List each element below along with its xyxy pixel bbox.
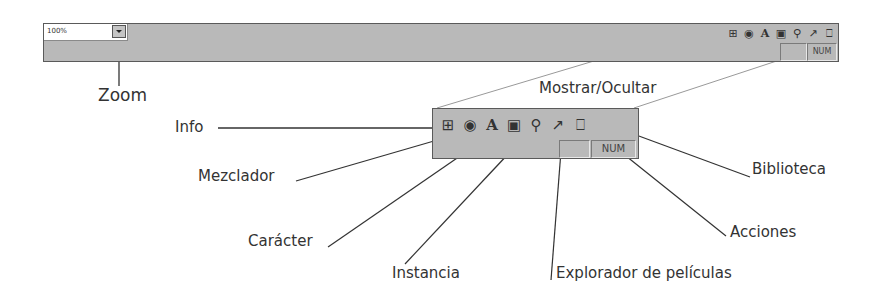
instance-icon[interactable]: ▣	[506, 118, 522, 133]
num-lock-indicator: NUM	[807, 43, 837, 61]
label-info: Info	[175, 118, 203, 136]
label-zoom: Zoom	[98, 85, 147, 105]
library-icon[interactable]: ⎕	[572, 118, 588, 133]
actions-icon[interactable]: ↗	[550, 118, 566, 133]
movie-explorer-icon[interactable]: ⚲	[791, 28, 803, 39]
launcher-enlarged: ⊞ ◉ A ▣ ⚲ ↗ ⎕ NUM	[432, 108, 639, 159]
zoom-value: 100%	[47, 27, 67, 35]
zoom-combo[interactable]: 100%	[44, 24, 128, 41]
library-icon[interactable]: ⎕	[823, 28, 835, 39]
label-character: Carácter	[248, 232, 313, 250]
info-icon[interactable]: ⊞	[440, 118, 456, 133]
zoom-dropdown-button[interactable]	[112, 25, 126, 38]
label-movie-explorer: Explorador de películas	[556, 264, 732, 282]
character-icon[interactable]: A	[484, 118, 500, 133]
launcher-icons-enlarged: ⊞ ◉ A ▣ ⚲ ↗ ⎕	[440, 115, 588, 135]
label-library: Biblioteca	[752, 160, 826, 178]
info-icon[interactable]: ⊞	[727, 28, 739, 39]
status-blank-field	[559, 140, 590, 158]
launcher-icons: ⊞ ◉ A ▣ ⚲ ↗ ⎕	[727, 25, 835, 41]
status-blank-field	[780, 43, 807, 61]
status-bar: 100% ⊞ ◉ A ▣ ⚲ ↗ ⎕ NUM	[43, 23, 839, 62]
movie-explorer-icon[interactable]: ⚲	[528, 118, 544, 133]
mixer-icon[interactable]: ◉	[743, 28, 755, 39]
instance-icon[interactable]: ▣	[775, 28, 787, 39]
character-icon[interactable]: A	[759, 28, 771, 39]
label-mixer: Mezclador	[198, 167, 275, 185]
label-actions: Acciones	[730, 223, 796, 241]
label-show-hide: Mostrar/Ocultar	[539, 79, 656, 97]
mixer-icon[interactable]: ◉	[462, 118, 478, 133]
label-instance: Instancia	[392, 264, 460, 282]
num-lock-indicator: NUM	[591, 140, 636, 158]
actions-icon[interactable]: ↗	[807, 28, 819, 39]
